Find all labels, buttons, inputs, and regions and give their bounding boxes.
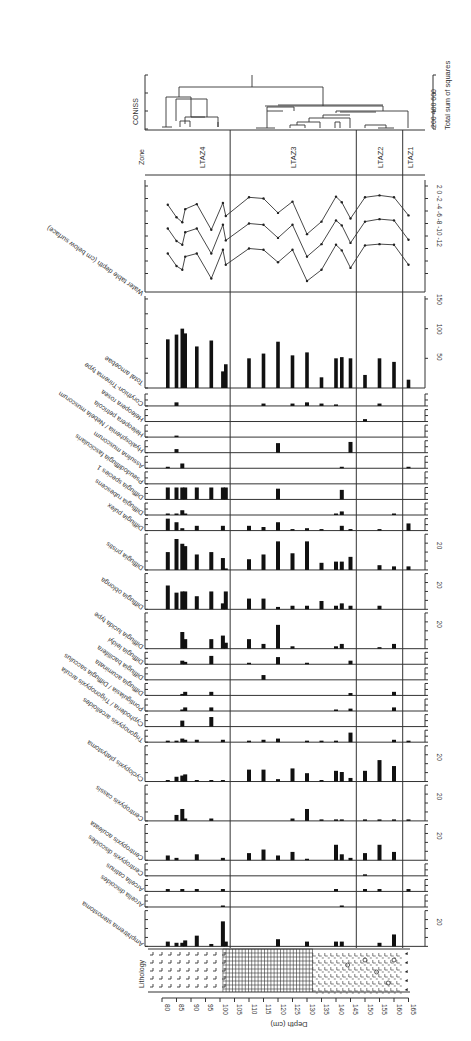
data-point	[320, 269, 322, 271]
bar	[305, 859, 309, 861]
bar	[291, 404, 295, 406]
bar	[276, 489, 280, 500]
silt-symbol	[331, 981, 336, 986]
silt-symbol	[313, 974, 318, 979]
depth-tick-label: 100	[222, 1004, 229, 1015]
data-point	[320, 243, 322, 245]
bar	[320, 529, 324, 531]
silt-symbol	[373, 967, 378, 972]
bar	[209, 487, 213, 499]
bar	[247, 526, 251, 531]
taxon-tick-label: 20	[436, 542, 443, 550]
peat-symbol	[213, 952, 216, 955]
depth-tick-label: 165	[410, 1004, 417, 1015]
dendrogram-branch	[267, 107, 294, 128]
zone-label-ltaz1: LTAZ1	[406, 147, 415, 168]
bar	[407, 741, 411, 743]
bar	[262, 675, 266, 680]
bar	[175, 335, 179, 388]
bar	[363, 419, 367, 421]
bar	[349, 606, 353, 610]
bar	[175, 777, 179, 782]
lithology-label: Lithology	[138, 959, 146, 988]
bar	[378, 845, 382, 860]
bar	[378, 943, 382, 947]
silt-symbol	[331, 967, 336, 972]
silt-symbol	[367, 974, 372, 979]
bar	[291, 819, 295, 821]
silt-symbol	[355, 974, 360, 979]
data-point	[291, 249, 293, 251]
bar	[305, 528, 309, 530]
depth-tick-label: 80	[164, 1004, 171, 1012]
peat-symbol	[195, 968, 198, 971]
dendrogram-branch	[309, 118, 350, 128]
data-point	[349, 267, 351, 269]
silt-symbol	[325, 960, 330, 965]
bar	[305, 352, 309, 388]
bar	[175, 741, 179, 743]
data-point	[248, 196, 250, 198]
bar	[276, 541, 280, 570]
bar	[247, 663, 251, 665]
silt-symbol	[349, 953, 354, 958]
data-point	[210, 277, 212, 279]
peat-symbol	[186, 984, 189, 987]
data-point	[248, 247, 250, 249]
bar	[183, 774, 187, 781]
depth-tick-label: 155	[381, 1004, 388, 1015]
water-table-line-lower	[168, 244, 409, 281]
bar	[209, 717, 213, 727]
silt-symbol	[355, 960, 360, 965]
dendrogram-branch	[176, 99, 207, 121]
bar	[334, 710, 338, 712]
bar	[320, 377, 324, 388]
bar	[334, 562, 338, 570]
bar	[183, 591, 187, 609]
peat-symbol	[150, 976, 153, 979]
bar	[340, 467, 344, 469]
silt-symbol	[331, 974, 336, 979]
peat-symbol	[177, 968, 180, 971]
bar	[392, 514, 396, 516]
depth-tick-label: 125	[294, 1004, 301, 1015]
depth-tick-label: 110	[251, 1004, 258, 1015]
bar	[291, 646, 295, 648]
peat-symbol	[213, 968, 216, 971]
bar	[363, 853, 367, 860]
bar	[195, 346, 199, 388]
bar	[392, 766, 396, 781]
data-point	[393, 219, 395, 221]
bar	[363, 771, 367, 782]
silt-symbol	[385, 960, 390, 965]
bar	[183, 487, 187, 499]
bar	[166, 339, 170, 388]
taxa-bar-panels: Corythion-Trinema typeHeleopera roseaHel…	[57, 361, 443, 949]
silt-symbol	[391, 960, 396, 965]
bar	[224, 643, 228, 649]
bar	[340, 644, 344, 649]
bar	[262, 770, 266, 782]
bar	[195, 554, 199, 569]
depth-tick-label: 95	[207, 1004, 214, 1012]
data-point	[393, 244, 395, 246]
bar	[392, 644, 396, 649]
depth-tick-label: 135	[323, 1004, 330, 1015]
bar	[221, 858, 225, 860]
bar	[183, 639, 187, 649]
silt-symbol	[379, 974, 384, 979]
bar	[247, 559, 251, 570]
bar	[334, 606, 338, 610]
bar	[221, 905, 225, 907]
silt-symbol	[361, 974, 366, 979]
bar	[334, 889, 338, 891]
peat-symbol	[186, 952, 189, 955]
depth-tick-label: 150	[367, 1004, 374, 1015]
wood-fragment-symbol	[392, 958, 396, 962]
bar	[276, 739, 280, 743]
zone-boundaries	[230, 130, 403, 948]
bar	[224, 364, 228, 388]
bar	[363, 819, 367, 821]
data-point	[407, 214, 409, 216]
data-point	[196, 227, 198, 229]
